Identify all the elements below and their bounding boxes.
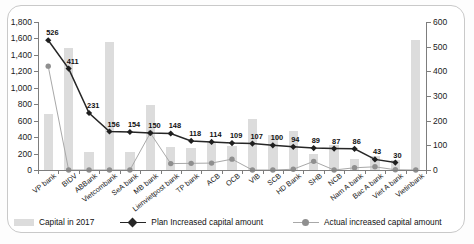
data-label: 94	[291, 136, 299, 143]
plan-marker	[188, 138, 194, 144]
left-axis-tick-label: 1,200	[11, 67, 32, 76]
legend-item-actual: Actual increased capital amount	[293, 218, 442, 227]
data-label: 231	[87, 102, 99, 109]
tick-mark	[427, 71, 431, 72]
plan-marker	[351, 146, 357, 152]
plan-marker	[168, 130, 174, 136]
plan-marker	[290, 144, 296, 150]
data-label: 43	[373, 148, 381, 155]
data-label: 118	[189, 130, 201, 137]
plan-marker	[311, 145, 317, 151]
left-axis-tick-label: 0	[27, 166, 32, 175]
data-label: 30	[393, 152, 401, 159]
data-label: 154	[128, 121, 140, 128]
tick-mark	[34, 154, 38, 155]
left-axis-line	[38, 22, 39, 170]
legend-label-actual: Actual increased capital amount	[324, 218, 442, 227]
actual-marker	[311, 159, 316, 164]
tick-mark	[34, 104, 38, 105]
tick-mark	[34, 88, 38, 89]
plot-area: 02004006008001,0001,2001,4001,6001,800 0…	[38, 22, 426, 170]
plan-marker	[372, 156, 378, 162]
diamond-line-icon	[120, 218, 146, 227]
left-axis-tick-label: 1,000	[11, 84, 32, 93]
actual-marker	[188, 161, 193, 166]
data-label: 87	[332, 138, 340, 145]
bar-swatch-icon	[14, 219, 34, 226]
plan-marker	[147, 130, 153, 136]
tick-mark	[34, 22, 38, 23]
right-axis-tick-label: 200	[433, 117, 447, 126]
right-axis-tick-label: 600	[433, 18, 447, 27]
legend-item-capital: Capital in 2017	[14, 218, 94, 227]
plan-marker	[331, 145, 337, 151]
data-label: 89	[312, 137, 320, 144]
tick-mark	[427, 96, 431, 97]
chart-figure: 02004006008001,0001,2001,4001,6001,800 0…	[0, 0, 474, 244]
right-axis-tick-label: 100	[433, 141, 447, 150]
right-axis-tick-label: 300	[433, 92, 447, 101]
actual-marker	[229, 156, 234, 161]
bottom-axis-line	[38, 170, 427, 171]
legend-label-plan: Plan Increased capital amount	[151, 218, 263, 227]
tick-mark	[34, 137, 38, 138]
legend-item-plan: Plan Increased capital amount	[120, 218, 263, 227]
tick-mark	[34, 38, 38, 39]
left-axis-tick-label: 1,800	[11, 18, 32, 27]
data-label: 148	[169, 122, 181, 129]
tick-mark	[426, 170, 427, 174]
data-label: 100	[271, 134, 283, 141]
chart-legend: Capital in 2017 Plan Increased capital a…	[14, 214, 460, 230]
tick-mark	[427, 47, 431, 48]
actual-marker	[46, 63, 51, 68]
actual-marker	[209, 160, 214, 165]
data-label: 411	[67, 58, 79, 65]
left-axis-tick-label: 1,600	[11, 34, 32, 43]
left-axis-tick-label: 400	[18, 133, 32, 142]
tick-mark	[427, 145, 431, 146]
data-label: 114	[210, 131, 222, 138]
right-axis-tick-label: 0	[433, 166, 438, 175]
x-axis-category-labels: VP bankBIDVABBankVietcombankSeA bankMB b…	[38, 172, 426, 212]
plan-marker	[127, 129, 133, 135]
data-label: 109	[230, 132, 242, 139]
actual-marker	[168, 161, 173, 166]
plan-marker	[208, 139, 214, 145]
tick-mark	[427, 121, 431, 122]
data-label: 107	[250, 133, 262, 140]
legend-label-capital: Capital in 2017	[39, 218, 94, 227]
tick-mark	[427, 170, 431, 171]
data-label: 86	[353, 138, 361, 145]
actual-marker	[372, 164, 377, 169]
left-axis-tick-label: 200	[18, 150, 32, 159]
tick-mark	[34, 121, 38, 122]
tick-mark	[34, 71, 38, 72]
left-axis-tick-label: 800	[18, 100, 32, 109]
plan-marker	[249, 141, 255, 147]
actual-line-series	[46, 63, 419, 172]
circle-line-icon	[293, 218, 319, 227]
data-label: 150	[148, 122, 160, 129]
tick-mark	[34, 55, 38, 56]
left-axis-tick-label: 600	[18, 117, 32, 126]
plan-marker	[229, 140, 235, 146]
right-axis-tick-label: 400	[433, 67, 447, 76]
tick-mark	[427, 22, 431, 23]
right-axis-tick-label: 500	[433, 43, 447, 52]
data-label: 156	[107, 121, 119, 128]
left-axis-tick-label: 1,400	[11, 51, 32, 60]
plan-marker	[270, 142, 276, 148]
data-label: 526	[46, 29, 58, 36]
plan-marker	[392, 160, 398, 166]
line-series-layer	[38, 22, 426, 170]
